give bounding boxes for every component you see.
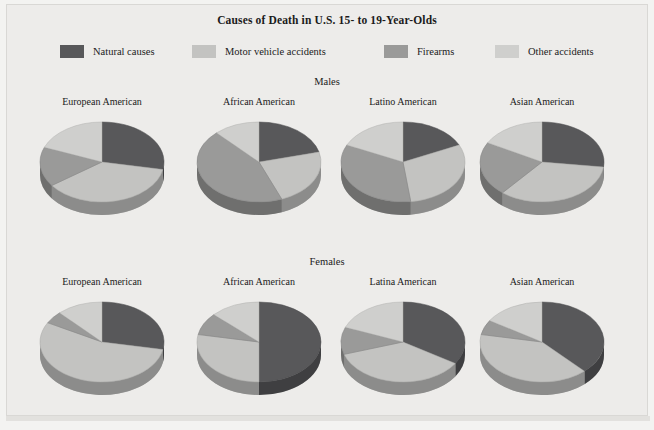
legend-label-natural-causes: Natural causes (93, 46, 155, 57)
legend-swatch-natural-causes (60, 45, 84, 58)
legend-item-motor-vehicle-accidents: Motor vehicle accidents (192, 42, 326, 60)
legend-item-natural-causes: Natural causes (60, 42, 155, 60)
legend-item-other-accidents: Other accidents (495, 42, 594, 60)
legend-label-firearms: Firearms (417, 46, 454, 57)
pie-chart (472, 112, 612, 228)
row-heading-females: Females (0, 256, 654, 267)
pie-chart (32, 292, 172, 408)
pie-label: European American (22, 276, 182, 287)
pie-chart (189, 292, 329, 408)
pie-cell-males-european-american: European American (22, 96, 182, 231)
legend-label-other-accidents: Other accidents (528, 46, 594, 57)
pie-cell-females-latina-american: Latina American (323, 276, 483, 411)
pie-cell-females-european-american: European American (22, 276, 182, 411)
pie-cell-females-african-american: African American (179, 276, 339, 411)
legend-label-motor-vehicle-accidents: Motor vehicle accidents (225, 46, 326, 57)
pie-cell-males-african-american: African American (179, 96, 339, 231)
pie-cell-males-latino-american: Latino American (323, 96, 483, 231)
pie-cell-males-asian-american: Asian American (462, 96, 622, 231)
pie-label: African American (179, 96, 339, 107)
pie-chart (472, 292, 612, 408)
panel-shadow (6, 416, 650, 421)
legend-swatch-firearms (384, 45, 408, 58)
pie-label: Asian American (462, 96, 622, 107)
pie-chart (189, 112, 329, 228)
pie-chart (32, 112, 172, 228)
pie-chart (333, 112, 473, 228)
pie-label: Asian American (462, 276, 622, 287)
pie-label: Latino American (323, 96, 483, 107)
pie-label: Latina American (323, 276, 483, 287)
legend-item-firearms: Firearms (384, 42, 454, 60)
figure-title: Causes of Death in U.S. 15- to 19-Year-O… (0, 14, 654, 26)
pie-cell-females-asian-american: Asian American (462, 276, 622, 411)
pie-row-males: European American African American Latin… (0, 96, 654, 231)
legend-swatch-other-accidents (495, 45, 519, 58)
figure-container: Causes of Death in U.S. 15- to 19-Year-O… (0, 0, 654, 430)
pie-label: European American (22, 96, 182, 107)
pie-row-females: European American African American Latin… (0, 276, 654, 411)
pie-label: African American (179, 276, 339, 287)
row-heading-males: Males (0, 76, 654, 87)
legend: Natural causes Motor vehicle accidents F… (52, 42, 612, 62)
pie-chart (333, 292, 473, 408)
legend-swatch-motor-vehicle-accidents (192, 45, 216, 58)
